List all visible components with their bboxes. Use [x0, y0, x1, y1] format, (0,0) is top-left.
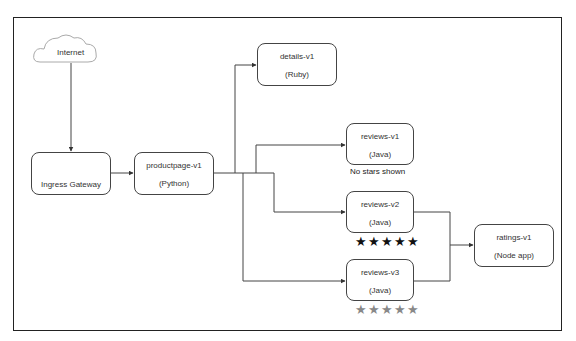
productpage-node[interactable]: productpage-v1 (Python)	[134, 152, 214, 195]
ingress-gateway-label: Ingress Gateway	[32, 180, 110, 189]
ratings-lang: (Node app)	[475, 251, 553, 260]
reviews-v2-name: reviews-v2	[347, 200, 413, 209]
productpage-lang: (Python)	[135, 179, 213, 188]
reviews-v2-node[interactable]: reviews-v2 (Java)	[346, 191, 414, 233]
reviews-v3-name: reviews-v3	[347, 268, 413, 277]
details-name: details-v1	[258, 52, 336, 61]
reviews-v1-caption: No stars shown	[350, 167, 405, 176]
reviews-v2-stars: ★★★★★	[355, 234, 420, 249]
reviews-v1-lang: (Java)	[347, 150, 413, 159]
internet-label: Internet	[57, 48, 84, 57]
reviews-v2-lang: (Java)	[347, 218, 413, 227]
details-node[interactable]: details-v1 (Ruby)	[257, 43, 337, 86]
productpage-name: productpage-v1	[135, 161, 213, 170]
ingress-gateway-node[interactable]: Ingress Gateway	[31, 152, 111, 195]
reviews-v3-stars: ★★★★★	[355, 302, 420, 317]
ratings-name: ratings-v1	[475, 233, 553, 242]
reviews-v1-node[interactable]: reviews-v1 (Java)	[346, 123, 414, 165]
reviews-v3-lang: (Java)	[347, 286, 413, 295]
reviews-v1-name: reviews-v1	[347, 132, 413, 141]
reviews-v3-node[interactable]: reviews-v3 (Java)	[346, 259, 414, 301]
ratings-node[interactable]: ratings-v1 (Node app)	[474, 224, 554, 267]
details-lang: (Ruby)	[258, 70, 336, 79]
